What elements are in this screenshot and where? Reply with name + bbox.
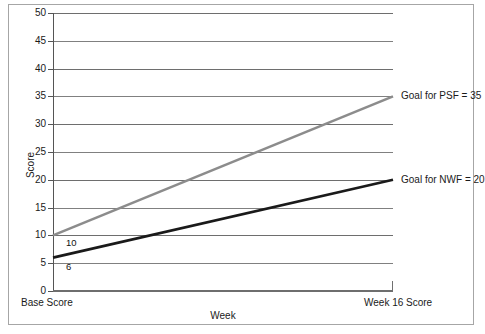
chart-figure: Score 05101520253035404550 10 6 Goal for… [8,4,474,325]
gridline-0 [53,291,393,292]
psf-start-value-label: 10 [66,238,77,248]
nwf-goal-annotation: Goal for NWF = 20 [401,175,485,185]
line-psf [53,96,393,235]
x-axis-label-base-score: Base Score [21,297,73,308]
y-tick-mark-0 [48,291,53,292]
y-tick-label-35: 35 [35,91,46,101]
nwf-start-value-label: 6 [66,262,71,272]
x-axis-title: Week [53,310,393,321]
y-tick-label-5: 5 [40,258,46,268]
y-tick-label-25: 25 [35,147,46,157]
y-tick-label-40: 40 [35,64,46,74]
plot-area: 05101520253035404550 10 6 [53,13,393,291]
y-tick-label-10: 10 [35,230,46,240]
line-nwf [53,180,393,258]
y-tick-label-20: 20 [35,175,46,185]
y-tick-label-15: 15 [35,203,46,213]
psf-goal-annotation: Goal for PSF = 35 [401,91,481,101]
series-lines [53,13,393,291]
y-tick-label-30: 30 [35,119,46,129]
y-tick-label-0: 0 [40,286,46,296]
x-axis-label-week16-score: Week 16 Score [364,297,432,308]
y-tick-label-45: 45 [35,36,46,46]
y-tick-label-50: 50 [35,8,46,18]
